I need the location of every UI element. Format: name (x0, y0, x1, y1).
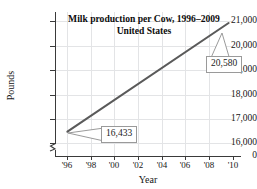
x-tick-label: '06 (172, 161, 198, 170)
y-tick-label: 16,000 (209, 138, 257, 148)
chart-title-line2: United States (117, 25, 172, 36)
y-tick (50, 70, 56, 71)
y-tick-label: 20,000 (209, 41, 257, 51)
gridline-horizontal (55, 143, 233, 144)
x-tick-label: '08 (196, 161, 222, 170)
gridline-horizontal (55, 46, 233, 47)
data-label-value-start: 16,433 (106, 128, 132, 138)
y-tick (50, 143, 56, 144)
chart-figure: 21,000 20,000 19,000 18,000 17,000 16,00… (0, 0, 257, 189)
y-tick-label: 17,000 (209, 114, 257, 124)
x-tick-label: '00 (101, 161, 127, 170)
y-axis-title: Pounds (5, 58, 16, 114)
y-tick (50, 21, 56, 22)
y-tick (50, 46, 56, 47)
gridline-horizontal (55, 119, 233, 120)
y-tick-label: 18,000 (209, 90, 257, 100)
chart-title-line1: Milk production per Cow, 1996–2009 (68, 13, 220, 24)
y-tick (50, 119, 56, 120)
y-axis-spine (55, 12, 56, 143)
data-label-callout-end: 20,580 (206, 56, 242, 73)
y-tick (50, 95, 56, 96)
x-tick-label: '02 (125, 161, 151, 170)
x-tick-label: '96 (54, 161, 80, 170)
gridline-horizontal (55, 95, 233, 96)
x-axis-title: Year (55, 174, 241, 185)
data-label-value-end: 20,580 (211, 58, 237, 68)
data-label-callout-start: 16,433 (101, 126, 137, 143)
x-tick-label: '10 (220, 161, 246, 170)
chart-title: Milk production per Cow, 1996–2009 Unite… (58, 13, 230, 36)
